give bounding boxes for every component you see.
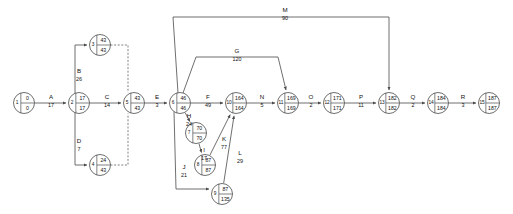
activity-label-I: I17 (201, 146, 207, 161)
node-14[interactable]: 14184184 (428, 93, 449, 114)
node-early-4: 24 (100, 157, 106, 163)
activity-duration-A: 17 (48, 102, 54, 108)
node-id-14: 14 (428, 100, 434, 105)
node-late-12: 171 (333, 105, 342, 111)
activity-name-D: D (77, 137, 82, 144)
activity-name-F: F (206, 93, 210, 100)
activity-duration-H: 24 (186, 121, 192, 127)
node-early-3: 43 (100, 37, 106, 43)
activity-label-K: K77 (221, 135, 227, 150)
node-2[interactable]: 21717 (69, 93, 90, 114)
dummy-link-3-5 (111, 45, 129, 93)
activity-duration-F: 49 (205, 102, 211, 108)
activity-label-F: F49 (205, 93, 211, 108)
activity-name-J: J (182, 163, 185, 170)
node-id-12: 12 (324, 100, 330, 105)
node-id-1: 1 (16, 100, 19, 105)
edge-G (183, 57, 286, 93)
node-id-10: 10 (226, 100, 232, 105)
node-12[interactable]: 12171171 (324, 93, 345, 114)
activity-name-L: L (238, 149, 242, 156)
activity-name-G: G (235, 47, 240, 54)
activity-duration-L: 29 (237, 158, 243, 164)
node-early-14: 184 (437, 95, 446, 101)
node-early-1: 0 (26, 95, 29, 101)
node-1[interactable]: 100 (14, 93, 35, 114)
activity-label-D: D7 (77, 137, 82, 152)
node-13[interactable]: 13182182 (379, 93, 400, 114)
activity-label-A: A17 (48, 93, 54, 108)
activity-duration-I: 17 (201, 155, 207, 161)
node-id-5: 5 (126, 100, 129, 105)
activity-duration-J: 21 (181, 172, 187, 178)
node-id-6: 6 (172, 100, 175, 105)
activity-duration-R: 3 (462, 102, 465, 108)
node-late-11: 169 (287, 105, 296, 111)
node-late-6: 46 (180, 105, 186, 111)
activity-label-O: O2 (309, 93, 314, 108)
node-id-2: 2 (71, 100, 74, 105)
node-5[interactable]: 54343 (124, 93, 145, 114)
node-late-7: 70 (196, 135, 202, 141)
node-layer: 1002171734343424435434364646770708878798… (14, 35, 500, 205)
node-id-8: 8 (197, 162, 200, 167)
node-id-15: 15 (479, 100, 485, 105)
activity-name-K: K (222, 135, 227, 142)
activity-name-O: O (309, 93, 314, 100)
edge-M (173, 17, 389, 93)
node-late-10: 164 (235, 105, 244, 111)
activity-name-C: C (105, 93, 110, 100)
node-early-7: 70 (196, 125, 202, 131)
node-early-2: 17 (79, 95, 85, 101)
node-early-15: 187 (488, 95, 497, 101)
activity-label-N: N5 (260, 93, 264, 108)
activity-name-R: R (461, 93, 466, 100)
node-late-2: 17 (79, 105, 85, 111)
dummy-link-4-5 (111, 114, 129, 166)
activity-name-H: H (187, 112, 191, 119)
node-early-13: 182 (388, 95, 397, 101)
node-late-13: 182 (388, 105, 397, 111)
activity-label-P: P11 (358, 93, 364, 108)
activity-name-M: M (282, 6, 287, 13)
activity-duration-B: 26 (76, 76, 82, 82)
activity-name-E: E (155, 93, 159, 100)
node-early-11: 169 (287, 95, 296, 101)
node-early-5: 43 (134, 95, 140, 101)
node-id-13: 13 (379, 100, 385, 105)
node-id-7: 7 (188, 130, 191, 135)
activity-label-G: G120 (233, 47, 242, 62)
node-15[interactable]: 15187187 (479, 93, 500, 114)
node-id-9: 9 (214, 191, 217, 196)
edge-I (199, 144, 202, 153)
activity-name-A: A (49, 93, 54, 100)
node-4[interactable]: 42443 (90, 155, 111, 176)
node-11[interactable]: 11169169 (278, 93, 299, 114)
node-6[interactable]: 64646 (170, 93, 191, 114)
activity-label-E: E3 (155, 93, 159, 108)
node-late-14: 184 (437, 105, 446, 111)
activity-duration-E: 3 (156, 102, 159, 108)
node-id-4: 4 (92, 162, 95, 167)
node-early-10: 164 (235, 95, 244, 101)
network-diagram-canvas: 1002171734343424435434364646770708878798… (0, 0, 513, 214)
activity-duration-M: 90 (282, 15, 288, 21)
activity-label-M: M90 (282, 6, 288, 21)
activity-duration-K: 77 (221, 144, 227, 150)
activity-name-P: P (359, 93, 363, 100)
node-3[interactable]: 34343 (90, 35, 111, 56)
activity-label-B: B26 (76, 67, 82, 82)
node-10[interactable]: 10164164 (226, 93, 247, 114)
node-early-12: 171 (333, 95, 342, 101)
activity-duration-Q: 2 (412, 102, 415, 108)
node-9[interactable]: 987135 (212, 184, 233, 205)
activity-duration-C: 14 (104, 102, 110, 108)
activity-label-R: R3 (461, 93, 466, 108)
node-late-8: 87 (205, 167, 211, 173)
activity-duration-O: 2 (310, 102, 313, 108)
activity-duration-P: 11 (358, 102, 364, 108)
activity-label-C: C14 (104, 93, 110, 108)
node-late-3: 43 (100, 47, 106, 53)
activity-label-layer: A17B26C14D7E3F49G120H24I17J21K77L29M90N5… (48, 6, 466, 178)
node-early-9: 87 (222, 186, 228, 192)
